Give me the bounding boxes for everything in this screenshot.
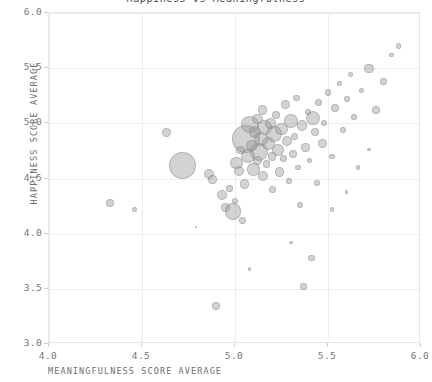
y-axis-label: HAPPINESS SCORE AVERAGE: [29, 33, 39, 233]
data-point[interactable]: [315, 99, 323, 107]
data-point[interactable]: [293, 95, 299, 101]
y-tick-label-6: 6.0: [8, 6, 42, 17]
data-point[interactable]: [344, 96, 350, 102]
y-tick-label-0: 3.0: [8, 337, 42, 348]
data-point[interactable]: [195, 226, 198, 229]
data-point[interactable]: [331, 104, 339, 112]
data-point[interactable]: [289, 241, 293, 245]
data-point[interactable]: [359, 88, 364, 93]
data-point[interactable]: [389, 53, 394, 58]
data-point[interactable]: [301, 143, 309, 151]
data-point[interactable]: [217, 190, 227, 200]
gridline-vertical-2: [235, 13, 236, 342]
data-point[interactable]: [340, 127, 346, 133]
data-point[interactable]: [321, 120, 327, 126]
data-point[interactable]: [345, 190, 349, 194]
y-tick-mark-0: [44, 343, 48, 344]
gridline-horizontal-3: [49, 179, 419, 180]
data-point[interactable]: [240, 179, 250, 189]
data-point[interactable]: [234, 166, 244, 176]
data-point[interactable]: [269, 186, 276, 193]
data-point[interactable]: [263, 160, 271, 168]
data-point[interactable]: [325, 89, 332, 96]
data-point[interactable]: [364, 64, 373, 73]
gridline-horizontal-1: [49, 289, 419, 290]
data-point[interactable]: [281, 100, 290, 109]
x-tick-label-1: 4.5: [121, 350, 161, 361]
gridline-horizontal-4: [49, 123, 419, 124]
data-point[interactable]: [272, 111, 280, 119]
scatter-chart-figure: Happiness vs Meaningfulness 3.03.54.04.5…: [0, 0, 432, 382]
x-tick-label-2: 5.0: [214, 350, 254, 361]
data-point[interactable]: [380, 78, 387, 85]
data-point[interactable]: [356, 165, 360, 169]
x-tick-label-3: 5.5: [307, 350, 347, 361]
data-point[interactable]: [329, 154, 335, 160]
data-point[interactable]: [272, 144, 284, 156]
gridline-horizontal-6: [49, 13, 419, 14]
data-point[interactable]: [318, 139, 327, 148]
gridline-vertical-3: [328, 13, 329, 342]
x-tick-label-4: 6.0: [400, 350, 432, 361]
x-tick-mark-2: [234, 343, 235, 347]
data-point[interactable]: [396, 43, 402, 49]
gridline-horizontal-2: [49, 234, 419, 235]
data-point[interactable]: [289, 150, 297, 158]
data-point[interactable]: [330, 207, 334, 211]
x-tick-mark-4: [420, 343, 421, 347]
x-axis-label: MEANINGFULNESS SCORE AVERAGE: [48, 366, 222, 376]
data-point[interactable]: [372, 106, 380, 114]
data-point[interactable]: [258, 171, 268, 181]
data-point[interactable]: [239, 217, 246, 224]
x-tick-mark-3: [327, 343, 328, 347]
data-point[interactable]: [295, 165, 301, 171]
data-point[interactable]: [212, 302, 220, 310]
data-point[interactable]: [291, 133, 298, 140]
chart-title: Happiness vs Meaningfulness: [0, 0, 432, 5]
x-tick-mark-0: [48, 343, 49, 347]
data-point[interactable]: [162, 128, 171, 137]
data-point[interactable]: [308, 255, 315, 262]
data-point[interactable]: [284, 114, 298, 128]
data-point[interactable]: [258, 105, 267, 114]
data-point[interactable]: [351, 114, 357, 120]
gridline-vertical-1: [142, 13, 143, 342]
data-point[interactable]: [337, 81, 342, 86]
data-point[interactable]: [367, 148, 370, 151]
data-point[interactable]: [275, 167, 285, 177]
plot-area: [48, 12, 420, 343]
x-tick-label-0: 4.0: [28, 350, 68, 361]
data-point[interactable]: [226, 185, 232, 191]
data-point[interactable]: [297, 120, 308, 131]
data-point[interactable]: [132, 207, 137, 212]
data-point[interactable]: [248, 267, 251, 270]
data-point[interactable]: [106, 199, 114, 207]
data-point[interactable]: [286, 178, 292, 184]
data-point[interactable]: [311, 128, 319, 136]
data-point[interactable]: [232, 198, 238, 204]
data-point[interactable]: [208, 175, 216, 183]
data-point[interactable]: [297, 202, 304, 209]
data-point[interactable]: [280, 155, 287, 162]
y-tick-label-1: 3.5: [8, 282, 42, 293]
data-point[interactable]: [348, 72, 353, 77]
x-tick-mark-1: [141, 343, 142, 347]
data-point[interactable]: [307, 158, 312, 163]
data-point[interactable]: [169, 152, 196, 179]
gridline-vertical-0: [49, 13, 50, 342]
data-point[interactable]: [314, 180, 320, 186]
